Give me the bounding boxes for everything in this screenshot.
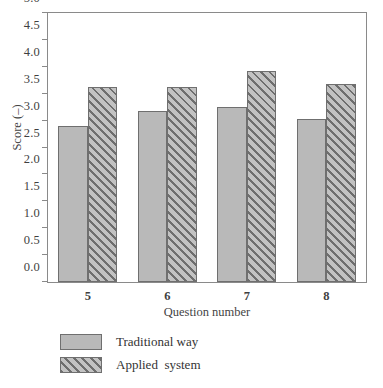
bar xyxy=(88,87,117,282)
legend-item: Traditional way xyxy=(60,330,201,353)
x-axis-title: Question number xyxy=(47,305,367,320)
y-axis-tick-label: 0.5 xyxy=(24,233,40,248)
y-axis-tick xyxy=(42,200,48,201)
x-axis-tick-label: 5 xyxy=(85,289,91,304)
bar xyxy=(138,111,167,282)
y-axis-tick-label: 3.5 xyxy=(24,71,40,86)
legend-swatch xyxy=(60,334,102,350)
x-axis-tick-label: 6 xyxy=(164,289,170,304)
bar xyxy=(247,71,276,282)
legend-label: Applied system xyxy=(116,357,201,373)
y-axis-tick xyxy=(42,147,48,148)
y-axis-tick-label: 4.5 xyxy=(24,17,40,32)
y-axis-tick-label: 3.0 xyxy=(24,98,40,113)
x-axis-tick-label: 7 xyxy=(244,289,250,304)
y-axis-tick-label: 2.0 xyxy=(24,152,40,167)
y-axis-tick xyxy=(42,12,48,13)
y-axis-tick xyxy=(42,173,48,174)
y-axis-tick xyxy=(42,120,48,121)
y-axis-tick xyxy=(42,281,48,282)
y-axis-tick xyxy=(42,39,48,40)
bar xyxy=(217,107,246,282)
x-axis-tick-label: 8 xyxy=(323,289,329,304)
bar-chart-figure: Score (–) 0.00.51.01.52.02.53.03.54.04.5… xyxy=(0,0,383,388)
y-axis-tick xyxy=(42,227,48,228)
y-axis-title: Score (–) xyxy=(10,73,25,183)
y-axis-tick xyxy=(42,93,48,94)
y-axis-tick-label: 1.0 xyxy=(24,206,40,221)
chart-legend: Traditional wayApplied system xyxy=(60,330,201,376)
bar xyxy=(297,119,326,282)
plot-area: 0.00.51.01.52.02.53.03.54.04.55.05678 xyxy=(47,12,367,283)
y-axis-tick xyxy=(42,254,48,255)
y-axis-tick-label: 1.5 xyxy=(24,179,40,194)
y-axis-tick-label: 0.0 xyxy=(24,260,40,275)
y-axis-tick-label: 2.5 xyxy=(24,125,40,140)
legend-item: Applied system xyxy=(60,353,201,376)
y-axis-tick-label: 4.0 xyxy=(24,44,40,59)
legend-swatch xyxy=(60,357,102,373)
bar xyxy=(58,126,87,282)
legend-label: Traditional way xyxy=(116,334,198,350)
y-axis-tick xyxy=(42,66,48,67)
bar xyxy=(167,87,196,282)
y-axis-tick-label: 5.0 xyxy=(24,0,40,6)
bar xyxy=(326,84,355,282)
